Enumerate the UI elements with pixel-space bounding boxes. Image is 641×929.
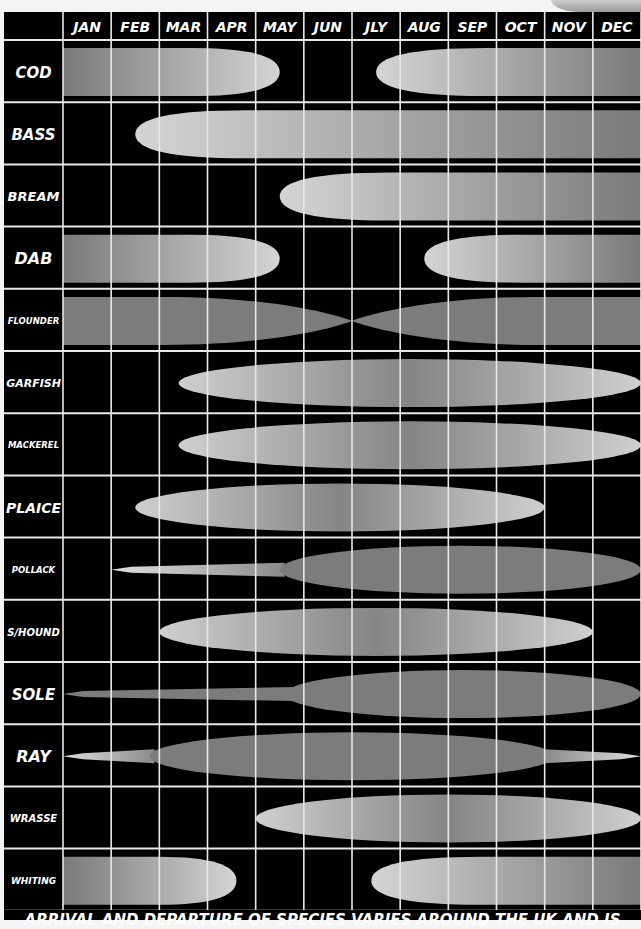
season-band-whiting [63,857,236,905]
season-band-garfish [179,359,641,407]
season-band-sole [63,687,294,701]
month-header-apr: APR [215,19,248,35]
month-header-mar: MAR [166,19,202,35]
season-band-sole [285,670,641,718]
season-band-cod [63,48,280,96]
species-label-sole: SOLE [12,686,56,704]
season-band-mackerel [179,421,641,469]
month-header-may: MAY [263,19,298,35]
month-header-jly: JLY [362,19,389,35]
month-header-jan: JAN [70,19,101,35]
month-header-feb: FEB [120,19,150,35]
season-band-ray [63,749,155,763]
species-label-pollack: POLLACK [12,565,57,575]
season-band-cod [376,48,641,96]
month-header-aug: AUG [407,19,441,35]
chart-canvas: JANFEBMARAPRMAYJUNJLYAUGSEPOCTNOVDECCODB… [4,12,641,910]
species-label-dab: DAB [15,249,53,268]
species-label-plaice: PLAICE [6,500,62,516]
species-label-mackerel: MACKEREL [8,440,59,450]
month-header-sep: SEP [457,19,488,35]
season-band-bream [280,173,641,221]
species-label-wrasse: WRASSE [10,813,58,824]
season-band-dab [63,235,280,283]
season-band-shound [159,608,593,656]
species-label-bream: BREAM [8,189,60,204]
species-label-whiting: WHITING [11,876,56,886]
month-header-jun: JUN [311,19,343,35]
season-band-pollack [111,563,284,577]
month-header-nov: NOV [552,19,587,35]
footer-note: ARRIVAL AND DEPARTURE OF SPECIES VARIES … [4,910,641,929]
season-band-whiting [371,857,641,905]
fish-season-chart: JANFEBMARAPRMAYJUNJLYAUGSEPOCTNOVDECCODB… [4,12,641,920]
species-label-cod: COD [15,64,51,82]
season-band-plaice [135,484,544,532]
page-curl-shadow [551,0,641,12]
month-header-oct: OCT [505,19,538,35]
month-header-dec: DEC [601,19,633,35]
season-band-dab [424,235,641,283]
species-label-bass: BASS [11,126,55,144]
species-label-shound: S/HOUND [7,627,60,638]
species-label-garfish: GARFISH [6,377,61,390]
season-band-pollack [280,546,641,594]
season-band-bass [135,110,641,158]
species-label-ray: RAY [16,747,52,766]
species-label-flounder: FLOUNDER [8,316,60,326]
